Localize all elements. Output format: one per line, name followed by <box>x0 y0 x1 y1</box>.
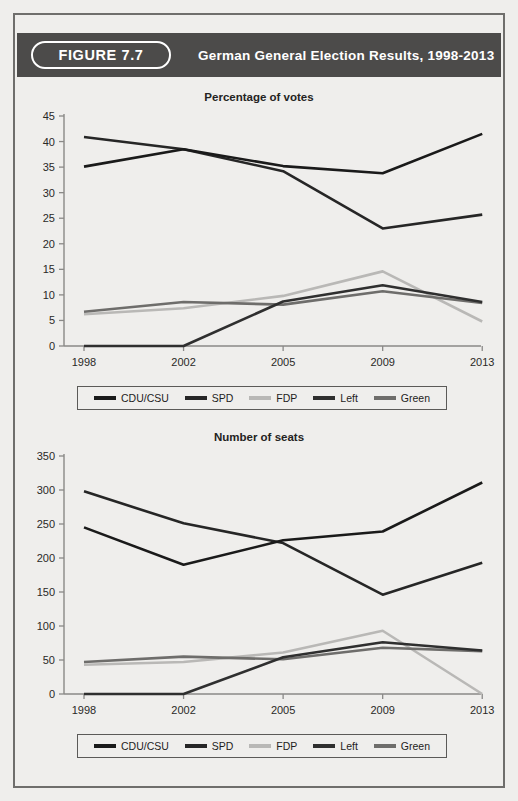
legend-item-cdu-csu[interactable]: CDU/CSU <box>94 392 169 404</box>
x-tick-label: 2013 <box>470 704 494 716</box>
legend-item-spd[interactable]: SPD <box>185 740 234 752</box>
series-line-spd <box>84 137 482 228</box>
x-tick-label: 1998 <box>72 356 96 368</box>
figure-title: German General Election Results, 1998-20… <box>198 48 494 63</box>
series-line-cdu-csu <box>84 483 482 565</box>
figure-page: FIGURE 7.7 German General Election Resul… <box>0 0 518 801</box>
y-tick-label: 15 <box>43 263 55 275</box>
figure-header-bar: FIGURE 7.7 German General Election Resul… <box>17 33 501 77</box>
y-tick-label: 300 <box>37 484 55 496</box>
chart-top-legend: CDU/CSUSPDFDPLeftGreen <box>77 386 447 410</box>
y-tick-label: 10 <box>43 289 55 301</box>
legend-item-green[interactable]: Green <box>374 392 430 404</box>
chart-bottom-legend: CDU/CSUSPDFDPLeftGreen <box>77 734 447 758</box>
chart-bottom-title: Number of seats <box>17 428 501 446</box>
y-tick-label: 35 <box>43 161 55 173</box>
y-tick-label: 20 <box>43 238 55 250</box>
legend-label: FDP <box>276 392 297 404</box>
legend-swatch-icon <box>249 396 271 400</box>
y-tick-label: 250 <box>37 518 55 530</box>
legend-item-fdp[interactable]: FDP <box>249 392 297 404</box>
figure-number-badge: FIGURE 7.7 <box>31 41 171 69</box>
legend-item-green[interactable]: Green <box>374 740 430 752</box>
legend-item-left[interactable]: Left <box>313 392 358 404</box>
chart-top-plot-area: 05101520253035404519982002200520092013 <box>17 106 501 378</box>
legend-swatch-icon <box>94 396 116 400</box>
chart-top-svg: 05101520253035404519982002200520092013 <box>17 106 501 378</box>
legend-item-fdp[interactable]: FDP <box>249 740 297 752</box>
y-tick-label: 50 <box>43 654 55 666</box>
y-tick-label: 25 <box>43 212 55 224</box>
x-tick-label: 2005 <box>271 356 295 368</box>
legend-label: FDP <box>276 740 297 752</box>
y-tick-label: 40 <box>43 136 55 148</box>
legend-label: SPD <box>212 740 234 752</box>
legend-swatch-icon <box>313 744 335 748</box>
legend-label: Green <box>401 740 430 752</box>
x-tick-label: 2002 <box>171 356 195 368</box>
series-line-fdp <box>84 631 482 694</box>
series-line-spd <box>84 491 482 594</box>
chart-bottom-svg: 0501001502002503003501998200220052009201… <box>17 446 501 726</box>
legend-swatch-icon <box>94 744 116 748</box>
y-tick-label: 350 <box>37 450 55 462</box>
x-tick-label: 2002 <box>171 704 195 716</box>
legend-swatch-icon <box>185 744 207 748</box>
legend-item-spd[interactable]: SPD <box>185 392 234 404</box>
legend-swatch-icon <box>374 396 396 400</box>
figure-number-label: FIGURE 7.7 <box>59 47 144 63</box>
x-tick-label: 2005 <box>271 704 295 716</box>
y-tick-label: 30 <box>43 187 55 199</box>
x-tick-label: 2009 <box>370 356 394 368</box>
legend-label: CDU/CSU <box>121 392 169 404</box>
legend-swatch-icon <box>313 396 335 400</box>
legend-label: CDU/CSU <box>121 740 169 752</box>
chart-top-title: Percentage of votes <box>17 88 501 106</box>
y-tick-label: 5 <box>49 314 55 326</box>
legend-swatch-icon <box>249 744 271 748</box>
series-line-left <box>84 285 482 346</box>
legend-label: SPD <box>212 392 234 404</box>
legend-swatch-icon <box>185 396 207 400</box>
y-tick-label: 0 <box>49 688 55 700</box>
legend-label: Left <box>340 740 358 752</box>
y-tick-label: 100 <box>37 620 55 632</box>
y-tick-label: 200 <box>37 552 55 564</box>
x-tick-label: 2013 <box>470 356 494 368</box>
x-tick-label: 1998 <box>72 704 96 716</box>
chart-number-of-seats: Number of seats 050100150200250300350199… <box>17 428 501 773</box>
chart-bottom-plot-area: 0501001502002503003501998200220052009201… <box>17 446 501 726</box>
series-line-cdu-csu <box>84 134 482 173</box>
y-tick-label: 45 <box>43 110 55 122</box>
legend-item-left[interactable]: Left <box>313 740 358 752</box>
legend-item-cdu-csu[interactable]: CDU/CSU <box>94 740 169 752</box>
y-tick-label: 150 <box>37 586 55 598</box>
y-tick-label: 0 <box>49 340 55 352</box>
legend-label: Left <box>340 392 358 404</box>
legend-swatch-icon <box>374 744 396 748</box>
legend-label: Green <box>401 392 430 404</box>
chart-percentage-of-votes: Percentage of votes 05101520253035404519… <box>17 88 501 418</box>
x-tick-label: 2009 <box>370 704 394 716</box>
